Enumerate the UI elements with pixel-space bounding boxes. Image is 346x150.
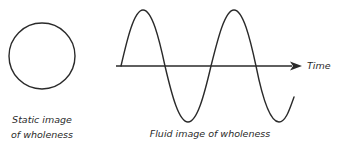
static-caption-line2: of wholeness [0, 127, 84, 142]
wholeness-diagram: Static image of wholeness Time Fluid ima… [0, 0, 346, 150]
fluid-image-caption: Fluid image of wholeness [130, 129, 290, 139]
static-caption-line1: Static image [0, 112, 84, 127]
time-axis-label: Time [307, 61, 331, 71]
static-image-caption: Static image of wholeness [0, 112, 84, 142]
static-wholeness-circle [9, 23, 75, 89]
